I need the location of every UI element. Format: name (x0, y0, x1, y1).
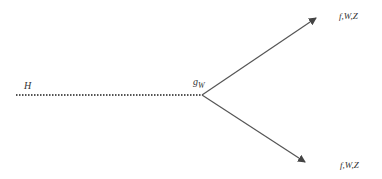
coupling-label-subscript: W (198, 81, 205, 90)
coupling-label: gW (193, 76, 205, 87)
upper-outgoing-arrow (202, 18, 316, 95)
feynman-diagram (0, 0, 382, 179)
higgs-label: H (24, 80, 31, 91)
lower-outgoing-arrow (202, 95, 305, 162)
lower-output-label: f,W,Z (340, 160, 359, 170)
upper-output-label: f,W,Z (339, 11, 358, 21)
